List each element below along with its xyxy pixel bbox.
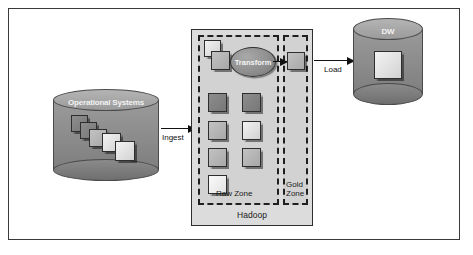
block-r3c2 (242, 148, 261, 167)
staged-block-front (211, 51, 230, 70)
dw-cylinder: DW (353, 18, 423, 105)
hadoop-label: Hadoop (192, 210, 312, 220)
source-card-5 (115, 141, 135, 161)
load-arrow-label: Load (323, 65, 343, 74)
load-arrow (314, 60, 354, 61)
gold-zone-label-line2: Zone (286, 189, 304, 198)
block-r1c2 (242, 93, 261, 112)
gold-block (287, 52, 305, 70)
cylinder-bottom (53, 159, 159, 181)
diagram-frame: Operational Systems Ingest Transform (8, 8, 460, 240)
block-r2c1 (208, 121, 227, 140)
block-r3c1 (208, 148, 227, 167)
hadoop-platform: Transform Raw Zone Gold Zone Hadoop (191, 29, 313, 226)
operational-systems-label: Operational Systems (53, 89, 159, 115)
block-r1c1 (208, 93, 227, 112)
block-r2c2 (242, 121, 261, 140)
transform-arrow (273, 61, 287, 62)
ingest-arrow (161, 128, 195, 129)
gold-zone-label-line1: Gold (286, 180, 303, 189)
dw-label: DW (353, 18, 423, 44)
raw-zone-label: Raw Zone (216, 189, 252, 198)
dw-block (374, 51, 402, 79)
operational-systems-cylinder: Operational Systems (53, 89, 159, 181)
ingest-arrow-label: Ingest (161, 133, 185, 142)
transform-process: Transform (230, 47, 276, 77)
cylinder-bottom (353, 83, 423, 105)
